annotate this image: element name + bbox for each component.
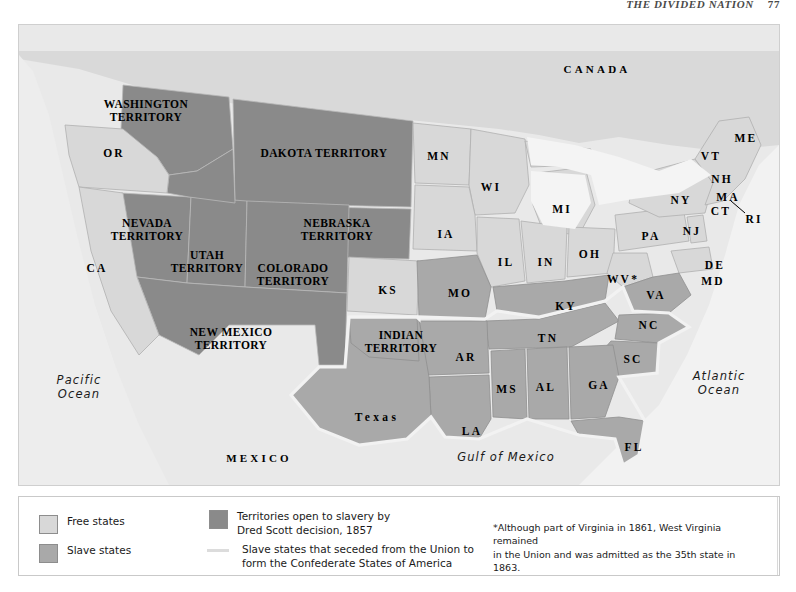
legend-item-territories-dred-scott: Territories open to slavery by Dred Scot…: [209, 509, 390, 537]
legend-swatch-free-states: [39, 515, 58, 534]
legend-divider: [777, 497, 778, 575]
running-head-text: THE DIVIDED NATION: [626, 0, 754, 10]
utah-territory-area: [187, 197, 247, 287]
running-head: THE DIVIDED NATION77: [0, 0, 796, 10]
legend-item-free-states: Free states: [39, 514, 125, 534]
legend-item-slave-states: Slave states: [39, 543, 131, 563]
alabama-area: [527, 347, 569, 419]
legend-label-free-states: Free states: [67, 514, 125, 528]
map-graphic: [19, 25, 779, 485]
legend-label-slave-states: Slave states: [67, 543, 131, 557]
legend-label-territories-dred-scott: Territories open to slavery by Dred Scot…: [237, 509, 390, 537]
page-number: 77: [768, 0, 780, 10]
kansas-area: [347, 257, 419, 315]
colorado-territory-area: [245, 201, 349, 293]
mississippi-area: [491, 349, 527, 419]
legend-swatch-territories-dred-scott: [209, 510, 228, 529]
legend-swatch-slave-states: [39, 544, 58, 563]
arkansas-area: [419, 321, 489, 375]
wisconsin-area: [469, 129, 529, 215]
legend-footnote: *Although part of Virginia in 1861, West…: [493, 521, 765, 574]
map-page: THE DIVIDED NATION77 Free and Slave Stat…: [0, 0, 796, 592]
legend-item-seceded-states: Slave states that seceded from the Union…: [207, 542, 474, 570]
new-jersey-area: [687, 215, 707, 243]
map-legend: Free states Slave states Territories ope…: [18, 496, 780, 576]
missouri-area: [417, 255, 491, 319]
maryland-delaware-area: [671, 247, 713, 273]
legend-label-seceded-states: Slave states that seceded from the Union…: [242, 542, 474, 570]
minnesota-area: [413, 123, 471, 185]
map-frame: Free and Slave States, 1861: [18, 24, 780, 486]
indiana-area: [521, 221, 567, 283]
legend-swatch-seceded-states: [207, 549, 229, 552]
iowa-area: [413, 185, 477, 251]
